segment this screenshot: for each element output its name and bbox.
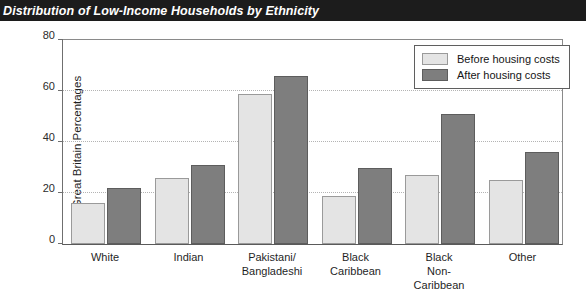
x-axis-label-line: Caribbean [384,278,494,292]
y-tick-label-40: 40 [43,131,55,143]
y-tick-label-80: 80 [43,29,55,41]
x-axis-label-line: Non- [384,264,494,278]
chart-legend: Before housing costs After housing costs [414,45,570,89]
legend-swatch-before-icon [422,53,448,65]
bar-before-housing-costs [489,180,523,244]
y-tick-label-20: 20 [43,182,55,194]
y-tick-label-60: 60 [43,80,55,92]
chart-figure: Distribution of Low-Income Households by… [0,0,586,303]
bar-group [63,40,147,244]
legend-label-after: After housing costs [457,69,551,81]
bar-group [314,40,398,244]
bar-before-housing-costs [71,203,105,244]
bar-before-housing-costs [405,175,439,244]
bar-before-housing-costs [155,178,189,244]
bar-after-housing-costs [107,188,141,244]
bar-after-housing-costs [525,152,559,244]
bar-group [230,40,314,244]
bar-after-housing-costs [358,168,392,245]
x-axis-label-line: Other [468,250,578,264]
legend-swatch-after-icon [422,69,448,81]
legend-item-after: After housing costs [422,67,560,83]
legend-item-before: Before housing costs [422,51,560,67]
legend-label-before: Before housing costs [457,53,560,65]
bar-after-housing-costs [441,114,475,244]
bar-after-housing-costs [274,76,308,244]
page-title: Distribution of Low-Income Households by… [0,4,319,18]
chart-title-bar: Distribution of Low-Income Households by… [0,0,586,21]
bar-after-housing-costs [191,165,225,244]
bar-before-housing-costs [322,196,356,244]
bar-group [147,40,231,244]
x-axis-label: Other [468,250,578,264]
bar-before-housing-costs [238,94,272,244]
y-tick-label-0: 0 [49,233,55,245]
